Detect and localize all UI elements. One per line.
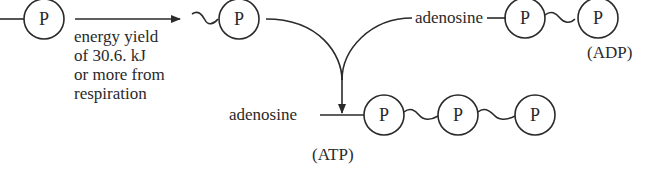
atp-molecule: adenosine P P P (ATP) <box>229 95 555 164</box>
high-energy-bond-icon <box>404 109 438 119</box>
high-energy-bond-icon <box>478 109 515 119</box>
phosphate-path-curve <box>266 19 342 80</box>
atp-adenosine-label: adenosine <box>229 105 297 124</box>
activated-phosphate: P <box>192 0 259 39</box>
phosphate-label: P <box>520 8 530 28</box>
energy-label: energy yield of 30.6. kJ or more from re… <box>74 27 165 103</box>
phosphate-label: P <box>234 9 244 29</box>
adp-adenosine-label: adenosine <box>415 8 483 27</box>
energy-label-line-2: of 30.6. kJ <box>74 46 146 65</box>
high-energy-bond-icon <box>545 12 575 22</box>
high-energy-bond-icon <box>192 12 218 23</box>
atp-synthesis-diagram: P energy yield of 30.6. kJ or more from … <box>0 0 649 172</box>
phosphate-label: P <box>530 105 540 125</box>
energy-label-line-1: energy yield <box>74 27 159 46</box>
free-phosphate: P <box>0 0 64 39</box>
phosphate-label: P <box>379 105 389 125</box>
atp-name-label: (ATP) <box>312 145 354 164</box>
phosphate-label: P <box>593 8 603 28</box>
phosphate-label: P <box>39 9 49 29</box>
adp-molecule: adenosine P P (ADP) <box>415 0 632 62</box>
adp-name-label: (ADP) <box>587 43 632 62</box>
adp-path-curve <box>342 18 412 80</box>
energy-label-line-4: respiration <box>74 84 147 103</box>
phosphate-label: P <box>453 105 463 125</box>
energy-label-line-3: or more from <box>74 65 165 84</box>
